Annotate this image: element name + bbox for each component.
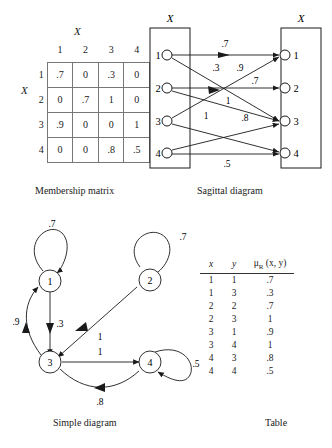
simple-arrowhead-mid <box>94 383 105 392</box>
caption-simple-diagram: Simple diagram <box>53 417 117 428</box>
caption-membership-matrix: Membership matrix <box>35 185 114 196</box>
matrix-row: 2 0 .7 1 0 <box>32 87 150 112</box>
matrix-cell: .3 <box>98 62 124 87</box>
sagittal-left-node-label-3: 3 <box>155 116 160 127</box>
sagittal-right-node-label-3: 3 <box>293 116 298 127</box>
sagittal-edge-1-3 <box>172 58 279 121</box>
relation-cell-mu: .7 <box>246 273 294 287</box>
relation-cell-mu: .7 <box>246 300 294 313</box>
relation-cell-mu: 1 <box>246 339 294 352</box>
simple-edge-label-loop4: .5 <box>192 359 199 369</box>
matrix-cell: .7 <box>47 62 73 87</box>
simple-edge-label-2-3: 1 <box>98 332 103 342</box>
sagittal-edge-label-4-4: .5 <box>223 159 230 169</box>
simple-edge-label-loop1: .7 <box>48 219 55 229</box>
relation-cell-mu: 1 <box>246 313 294 326</box>
simple-edge-3-to-1 <box>26 287 41 355</box>
relation-cell-mu: .8 <box>246 352 294 365</box>
relation-table-row: 2 2 .7 <box>200 300 294 313</box>
membership-matrix-table: 1 2 3 4 1 .7 0 .3 0 2 0 .7 1 0 3 .9 0 0 … <box>32 38 150 163</box>
relation-table-panel: x y μR (x, y) 1 1 .7 1 3 .3 2 2 .7 2 <box>200 258 332 418</box>
sagittal-left-node-2[interactable] <box>162 83 172 93</box>
matrix-col-header-1: 1 <box>47 38 73 62</box>
sagittal-left-node-3[interactable] <box>162 116 172 126</box>
sagittal-right-node-2[interactable] <box>280 83 290 93</box>
sagittal-left-node-label-2: 2 <box>155 83 160 94</box>
relation-cell-y: 3 <box>222 352 246 365</box>
matrix-cell: 0 <box>47 137 73 162</box>
matrix-row-header-2: 2 <box>32 87 47 112</box>
matrix-cell: 0 <box>73 62 99 87</box>
simple-node-label-2: 2 <box>148 275 153 286</box>
simple-arrowhead-mid <box>46 323 54 334</box>
simple-edge-label-4-3: .8 <box>96 397 103 407</box>
matrix-row-axis-label: X <box>21 84 28 96</box>
relation-cell-x: 1 <box>200 287 222 300</box>
simple-node-label-4: 4 <box>148 357 153 368</box>
sagittal-arrowhead-mid <box>208 86 220 94</box>
relation-table-row: 2 3 1 <box>200 313 294 326</box>
matrix-row-header-1: 1 <box>32 62 47 87</box>
matrix-cell: .8 <box>98 137 124 162</box>
relation-cell-x: 1 <box>200 273 222 287</box>
matrix-row: 1 .7 0 .3 0 <box>32 62 150 87</box>
sagittal-edge-label-2-2: .7 <box>251 76 258 86</box>
sagittal-edge-label-1-1: .7 <box>221 39 228 49</box>
sagittal-edge-label-2-3: 1 <box>226 96 231 106</box>
relation-cell-mu: .3 <box>246 287 294 300</box>
relation-cell-y: 3 <box>222 313 246 326</box>
sagittal-left-node-label-4: 4 <box>155 148 161 159</box>
relation-table-row: 1 3 .3 <box>200 287 294 300</box>
matrix-cell: 0 <box>47 87 73 112</box>
simple-diagram-panel: .7 .7 .9 .3 1 1 .8 <box>0 215 205 448</box>
relation-table-row: 4 4 .5 <box>200 365 294 378</box>
sagittal-right-axis-label: X <box>297 12 306 24</box>
relation-cell-x: 2 <box>200 300 222 313</box>
matrix-row-header-3: 3 <box>32 112 47 137</box>
simple-edge-label-3-1: .9 <box>12 317 19 327</box>
matrix-row: 4 0 0 .8 .5 <box>32 137 150 162</box>
mu-subscript: R <box>259 263 264 271</box>
relation-cell-y: 3 <box>222 287 246 300</box>
simple-selfloop-node-1 <box>34 229 67 273</box>
matrix-cell: .7 <box>73 87 99 112</box>
simple-node-label-3: 3 <box>48 357 53 368</box>
matrix-column-axis-label: X <box>74 25 81 37</box>
relation-table-header-y: y <box>222 258 246 273</box>
relation-table-header-x: x <box>200 258 222 273</box>
matrix-col-header-3: 3 <box>98 38 124 62</box>
relation-table-row: 1 1 .7 <box>200 273 294 287</box>
relation-cell-y: 4 <box>222 339 246 352</box>
matrix-cell: 0 <box>73 137 99 162</box>
sagittal-left-axis-label: X <box>166 12 175 24</box>
simple-arrowhead-mid <box>22 322 30 333</box>
sagittal-right-node-3[interactable] <box>280 116 290 126</box>
matrix-cell: .9 <box>47 112 73 137</box>
sagittal-right-node-1[interactable] <box>280 50 290 60</box>
simple-selfloop-node-2 <box>134 232 170 275</box>
relation-table: x y μR (x, y) 1 1 .7 1 3 .3 2 2 .7 2 <box>200 258 294 378</box>
sagittal-left-node-1[interactable] <box>162 50 172 60</box>
sagittal-edge-label-1-3: .3 <box>212 63 219 73</box>
relation-cell-y: 4 <box>222 365 246 378</box>
simple-diagram-svg: .7 .7 .9 .3 1 1 .8 <box>0 215 205 420</box>
relation-table-row: 3 4 1 <box>200 339 294 352</box>
simple-edge-label-loop2: .7 <box>179 232 186 242</box>
relation-cell-y: 1 <box>222 273 246 287</box>
caption-sagittal-diagram: Sagittal diagram <box>197 185 263 196</box>
sagittal-left-node-label-1: 1 <box>155 50 160 61</box>
matrix-cell: 0 <box>98 112 124 137</box>
relation-cell-y: 1 <box>222 326 246 339</box>
relation-cell-x: 4 <box>200 365 222 378</box>
matrix-cell: 1 <box>98 87 124 112</box>
relation-table-header-row: x y μR (x, y) <box>200 258 294 273</box>
matrix-cell: 0 <box>73 112 99 137</box>
sagittal-left-node-4[interactable] <box>162 148 172 158</box>
sagittal-right-node-4[interactable] <box>280 148 290 158</box>
simple-edge-4-to-3 <box>60 369 139 387</box>
simple-edge-label-3-4: 1 <box>98 347 103 357</box>
sagittal-diagram-svg: X X 1 2 3 4 1 2 <box>140 0 332 200</box>
relation-table-row: 4 3 .8 <box>200 352 294 365</box>
sagittal-right-node-label-4: 4 <box>293 148 299 159</box>
sagittal-edge-3-1 <box>172 57 279 118</box>
